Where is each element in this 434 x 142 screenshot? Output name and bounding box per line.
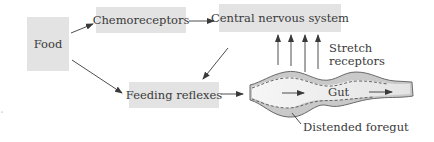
label-stretch-receptors: Stretch receptors bbox=[329, 42, 385, 68]
label-distended-foregut: Distended foregut bbox=[303, 121, 409, 134]
stray-mark bbox=[1, 111, 2, 112]
node-feeding-reflexes-label: Feeding reflexes bbox=[126, 88, 222, 102]
node-food-label: Food bbox=[34, 37, 63, 51]
node-feeding-reflexes: Feeding reflexes bbox=[129, 82, 219, 108]
node-chemoreceptors-label: Chemoreceptors bbox=[93, 13, 190, 27]
arrow-food-to-feeding-reflexes bbox=[72, 60, 122, 93]
node-cns-label: Central nervous system bbox=[211, 11, 349, 25]
arrow-cns-to-feeding-reflexes bbox=[203, 48, 228, 79]
arrows bbox=[71, 21, 392, 124]
node-food: Food bbox=[27, 17, 69, 71]
node-central-nervous-system: Central nervous system bbox=[219, 4, 341, 32]
label-gut: Gut bbox=[328, 86, 349, 99]
node-chemoreceptors: Chemoreceptors bbox=[96, 7, 186, 33]
arrow-food-to-chemoreceptors bbox=[71, 24, 93, 33]
label-stretch-line2: receptors bbox=[329, 55, 385, 68]
